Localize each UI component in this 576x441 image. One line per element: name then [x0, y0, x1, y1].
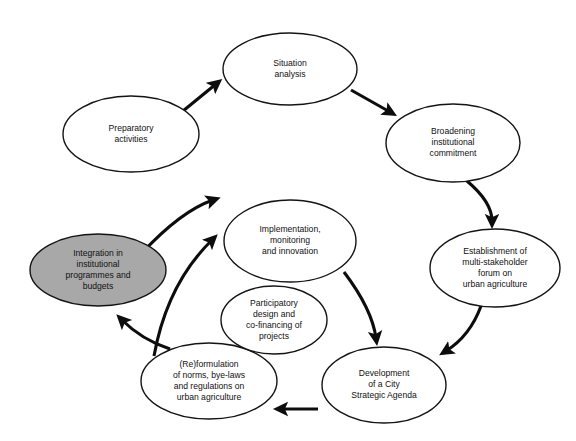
label-implementation-line-1: monitoring: [270, 235, 310, 245]
label-establishment-line-3: urban agriculture: [463, 279, 528, 289]
label-reformulation-line-2: and regulations on: [174, 381, 245, 391]
label-broadening-line-0: Broadening: [431, 126, 475, 136]
arrow-integration-to-implementation: [142, 200, 213, 253]
label-participatory-line-2: co-financing of: [246, 320, 303, 330]
label-integration-line-1: institutional: [77, 259, 120, 269]
node-implementation-monitoring-innovation[interactable]: Implementation, monitoring and innovatio…: [224, 200, 356, 282]
label-development-line-1: of a City: [368, 379, 400, 389]
arrow-implementation-to-development: [344, 272, 376, 338]
arrow-broadening-to-establishment: [467, 181, 492, 221]
arrow-preparatory-to-situation: [183, 84, 216, 111]
label-situation-analysis-line-1: analysis: [274, 69, 305, 79]
label-reformulation-line-0: (Re)formulation: [179, 359, 238, 369]
label-participatory-line-0: Participatory: [250, 298, 298, 308]
label-situation-analysis-line-0: Situation: [273, 58, 307, 68]
cycle-flow-diagram: Preparatory activities Situation analysi…: [0, 0, 576, 441]
label-establishment-line-0: Establishment of: [463, 246, 527, 256]
label-broadening-line-1: institutional: [432, 137, 475, 147]
node-broadening-institutional-commitment[interactable]: Broadening institutional commitment: [386, 104, 520, 182]
node-layer: Preparatory activities Situation analysi…: [30, 33, 560, 423]
label-establishment-line-2: forum on: [478, 268, 512, 278]
node-development-city-strategic-agenda[interactable]: Development of a City Strategic Agenda: [322, 347, 446, 423]
label-development-line-0: Development: [359, 368, 410, 378]
label-preparatory-activities-line-0: Preparatory: [109, 123, 155, 133]
node-preparatory-activities[interactable]: Preparatory activities: [63, 96, 199, 172]
flow-diagram-canvas: Preparatory activities Situation analysi…: [0, 0, 576, 441]
label-integration-line-2: programmes and: [66, 270, 131, 280]
label-establishment-line-1: multi-stakeholder: [462, 257, 528, 267]
label-integration-line-3: budgets: [83, 281, 114, 291]
node-situation-analysis[interactable]: Situation analysis: [223, 33, 357, 105]
label-development-line-2: Strategic Agenda: [351, 390, 417, 400]
arrow-establishment-to-development: [446, 306, 481, 351]
label-preparatory-activities-line-1: activities: [115, 134, 148, 144]
label-participatory-line-1: design and: [253, 309, 295, 319]
node-establishment-multi-stakeholder-forum[interactable]: Establishment of multi-stakeholder forum…: [430, 229, 560, 307]
label-implementation-line-0: Implementation,: [259, 224, 320, 234]
label-participatory-line-3: projects: [259, 331, 289, 341]
node-reformulation-norms-byelaws[interactable]: (Re)formulation of norms, bye-laws and r…: [141, 343, 277, 419]
label-implementation-line-2: and innovation: [262, 246, 318, 256]
node-integration-institutional-programmes-budgets[interactable]: Integration in institutional programmes …: [30, 234, 166, 306]
label-broadening-line-2: commitment: [430, 148, 477, 158]
label-integration-line-0: Integration in: [73, 248, 123, 258]
label-reformulation-line-1: of norms, bye-laws: [173, 370, 245, 380]
label-reformulation-line-3: urban agriculture: [177, 392, 242, 402]
node-participatory-design-cofinancing[interactable]: Participatory design and co-financing of…: [221, 286, 327, 354]
arrow-situation-to-broadening: [351, 90, 390, 112]
